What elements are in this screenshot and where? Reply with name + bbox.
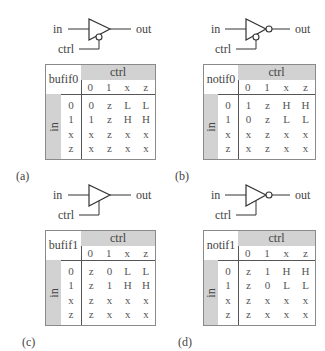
ctrl-label: ctrl <box>215 43 231 55</box>
ctrl-value: 0 <box>81 246 100 260</box>
table-cell: x <box>119 127 137 141</box>
table-cell: H <box>277 264 296 278</box>
table-body: z0LL z1HH zxxx zxxx <box>82 260 155 325</box>
table-cell: L <box>119 98 137 112</box>
in-values: 0 1 x z <box>61 260 82 325</box>
in-header: in <box>46 260 61 325</box>
ctrl-value: 1 <box>100 80 119 94</box>
ctrl-header: ctrl <box>238 231 315 246</box>
table-cell: L <box>296 278 315 292</box>
table-cell: z <box>82 278 100 292</box>
out-label: out <box>136 189 151 201</box>
ctrl-header: ctrl <box>81 65 155 80</box>
table-cell: x <box>119 307 137 321</box>
out-label: out <box>295 189 310 201</box>
ctrl-value: 1 <box>100 246 119 260</box>
table-row: zxxx <box>239 293 315 307</box>
table-cell: x <box>137 127 155 141</box>
table-row: xzxx <box>239 141 315 155</box>
ctrl-values: 0 1 x z <box>238 80 315 95</box>
table-cell: z <box>239 293 258 307</box>
in-label: in <box>53 23 62 35</box>
truth-table-notif0: notif0 ctrl 0 1 x z in 0 1 x z 1zHH 0zLL… <box>203 64 316 160</box>
in-value: z <box>61 141 81 155</box>
gate-bufif0: in out ctrl <box>0 0 162 56</box>
gate-notif0: in out ctrl <box>158 0 320 56</box>
table-cell: x <box>277 307 296 321</box>
table-cell: H <box>296 264 315 278</box>
in-values: 0 1 x z <box>218 260 239 325</box>
ctrl-value: z <box>137 246 156 260</box>
truth-table-bufif1: bufif1 ctrl 0 1 x z in 0 1 x z z0LL z1HH… <box>45 230 156 326</box>
table-cell: x <box>137 307 155 321</box>
table-cell: x <box>296 293 315 307</box>
table-cell: 0 <box>239 112 258 126</box>
ctrl-label: ctrl <box>58 43 74 55</box>
table-cell: H <box>277 98 296 112</box>
table-cell: x <box>100 293 118 307</box>
table-row: 0zLL <box>82 98 155 112</box>
table-cell: x <box>119 141 137 155</box>
ctrl-value: 0 <box>81 80 100 94</box>
in-value: z <box>61 307 81 321</box>
table-row: 1zHH <box>82 112 155 126</box>
table-cell: z <box>100 127 118 141</box>
table-row: z0LL <box>82 264 155 278</box>
table-cell: H <box>119 112 137 126</box>
table-row: zxxx <box>82 293 155 307</box>
in-values: 0 1 x z <box>61 94 82 159</box>
table-cell: z <box>100 98 118 112</box>
table-name: notif1 <box>204 231 239 261</box>
table-cell: x <box>137 293 155 307</box>
table-cell: z <box>239 307 258 321</box>
in-label: in <box>53 189 62 201</box>
table-cell: L <box>277 278 296 292</box>
table-cell: 1 <box>100 278 118 292</box>
table-cell: x <box>239 127 258 141</box>
table-cell: z <box>258 98 277 112</box>
table-row: 0zLL <box>239 112 315 126</box>
table-cell: x <box>296 307 315 321</box>
table-cell: in <box>46 288 61 297</box>
ctrl-value: z <box>137 80 156 94</box>
in-header: in <box>46 94 61 159</box>
table-cell: 1 <box>82 112 100 126</box>
panel-c: in out ctrl bufif1 ctrl 0 1 x z in 0 1 x… <box>0 166 162 341</box>
ctrl-value: z <box>296 80 315 94</box>
table-name: bufif0 <box>46 65 82 95</box>
ctrl-value: 0 <box>238 246 257 260</box>
table-cell: x <box>119 293 137 307</box>
ctrl-value: x <box>118 80 137 94</box>
in-value: 1 <box>218 112 238 126</box>
table-row: xzxx <box>82 127 155 141</box>
table-cell: H <box>137 278 155 292</box>
table-cell: 0 <box>258 278 277 292</box>
table-cell: in <box>204 288 219 297</box>
truth-table-notif1: notif1 ctrl 0 1 x z in 0 1 x z z1HH z0LL… <box>203 230 316 326</box>
ctrl-value: z <box>296 246 315 260</box>
ctrl-values: 0 1 x z <box>81 80 155 95</box>
table-cell: z <box>100 112 118 126</box>
table-cell: 0 <box>82 98 100 112</box>
in-value: 0 <box>218 98 238 112</box>
ctrl-value: 0 <box>238 80 257 94</box>
in-value: 0 <box>218 264 238 278</box>
table-row: z1HH <box>82 278 155 292</box>
caption: (c) <box>22 335 35 350</box>
out-label: out <box>295 23 310 35</box>
table-cell: L <box>119 264 137 278</box>
in-header: in <box>204 260 218 325</box>
table-cell: L <box>296 112 315 126</box>
table-row: 1zHH <box>239 98 315 112</box>
table-cell: H <box>137 112 155 126</box>
panel-d: in out ctrl notif1 ctrl 0 1 x z in 0 1 x… <box>158 166 320 341</box>
ctrl-value: x <box>277 80 296 94</box>
table-cell: z <box>239 278 258 292</box>
ctrl-values: 0 1 x z <box>238 246 315 261</box>
table-cell: x <box>82 141 100 155</box>
table-name: notif0 <box>204 65 239 95</box>
in-value: x <box>218 293 238 307</box>
table-cell: z <box>258 112 277 126</box>
ctrl-value: 1 <box>257 246 276 260</box>
table-cell: H <box>296 98 315 112</box>
